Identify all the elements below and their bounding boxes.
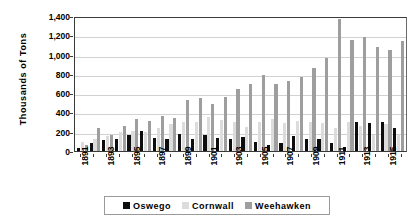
x-tick-mark bbox=[221, 154, 222, 157]
bar-group bbox=[76, 18, 89, 151]
bar-cornwall-1908 bbox=[296, 121, 299, 151]
bar-group bbox=[101, 18, 114, 151]
bar-weehawken-1902 bbox=[224, 97, 227, 151]
bar-cornwall-1906 bbox=[271, 119, 274, 151]
bar-oswego-1895 bbox=[127, 135, 130, 151]
bar-oswego-1901 bbox=[203, 135, 206, 151]
x-tick-cell: 1913 bbox=[356, 154, 369, 192]
x-tick-cell bbox=[87, 154, 100, 192]
y-tick-mark bbox=[70, 17, 73, 18]
y-tick-mark bbox=[70, 36, 73, 37]
x-tick-cell: 1911 bbox=[330, 154, 343, 192]
bar-group bbox=[89, 18, 102, 151]
y-tick-label: 1,200 bbox=[34, 32, 70, 40]
y-tick-label: 400 bbox=[34, 109, 70, 117]
bar-weehawken-1904 bbox=[249, 84, 252, 152]
bar-group bbox=[177, 18, 190, 151]
bar-oswego-1915 bbox=[381, 122, 384, 151]
legend-item-weehawken: Weehawken bbox=[245, 201, 311, 211]
square-swatch-icon bbox=[123, 202, 130, 209]
y-tick-mark bbox=[70, 113, 73, 114]
x-tick-mark bbox=[196, 154, 197, 157]
bar-cornwall-1900 bbox=[195, 122, 198, 151]
legend-label: Oswego bbox=[133, 201, 171, 211]
legend-item-cornwall: Cornwall bbox=[182, 201, 234, 211]
bar-cornwall-1914 bbox=[372, 135, 375, 151]
x-tick-cell: 1905 bbox=[253, 154, 266, 192]
x-tick-mark bbox=[93, 154, 94, 157]
x-tick-cell: 1903 bbox=[228, 154, 241, 192]
bar-group bbox=[266, 18, 279, 151]
x-tick-cell bbox=[189, 154, 202, 192]
bar-group bbox=[215, 18, 228, 151]
bar-weehawken-1913 bbox=[363, 37, 366, 151]
x-tick-mark bbox=[375, 154, 376, 157]
bar-group bbox=[380, 18, 393, 151]
bar-group bbox=[127, 18, 140, 151]
y-tick-label: 200 bbox=[34, 129, 70, 137]
y-tick-mark bbox=[70, 75, 73, 76]
x-tick-mark bbox=[349, 154, 350, 157]
bar-group bbox=[228, 18, 241, 151]
x-tick-cell: 1897 bbox=[151, 154, 164, 192]
bar-cornwall-1898 bbox=[169, 124, 172, 151]
x-tick-cell: 1891 bbox=[74, 154, 87, 192]
bar-group bbox=[241, 18, 254, 151]
x-tick-mark bbox=[298, 154, 299, 157]
bar-weehawken-1914 bbox=[376, 47, 379, 151]
bar-oswego-1899 bbox=[178, 134, 181, 151]
bar-weehawken-1899 bbox=[186, 100, 189, 151]
y-tick-mark bbox=[70, 152, 73, 153]
bar-cornwall-1892 bbox=[93, 139, 96, 151]
x-tick-cell bbox=[266, 154, 279, 192]
bar-oswego-1893 bbox=[102, 140, 105, 151]
y-axis: 02004006008001,0001,2001,400 bbox=[30, 0, 70, 223]
bar-cornwall-1910 bbox=[321, 123, 324, 151]
x-tick-cell bbox=[394, 154, 407, 192]
bar-cornwall-1894 bbox=[119, 132, 122, 151]
x-tick-cell: 1895 bbox=[125, 154, 138, 192]
x-tick-cell bbox=[317, 154, 330, 192]
bar-weehawken-1901 bbox=[211, 104, 214, 151]
bar-weehawken-1909 bbox=[312, 68, 315, 151]
x-tick-cell: 1899 bbox=[177, 154, 190, 192]
x-tick-cell: 1909 bbox=[305, 154, 318, 192]
x-tick-cell: 1893 bbox=[100, 154, 113, 192]
bar-group bbox=[367, 18, 380, 151]
bar-group bbox=[203, 18, 216, 151]
bar-weehawken-1912 bbox=[350, 40, 353, 151]
x-tick-cell: 1907 bbox=[279, 154, 292, 192]
y-tick-label: 600 bbox=[34, 90, 70, 98]
x-tick-mark bbox=[170, 154, 171, 157]
bar-group bbox=[279, 18, 292, 151]
x-tick-mark bbox=[324, 154, 325, 157]
bar-weehawken-1894 bbox=[123, 126, 126, 151]
x-tick-mark bbox=[273, 154, 274, 157]
x-tick-cell bbox=[164, 154, 177, 192]
bar-weehawken-1907 bbox=[287, 81, 290, 151]
bar-oswego-1911 bbox=[330, 143, 333, 151]
y-tick-label: 800 bbox=[34, 71, 70, 79]
y-tick-mark bbox=[70, 56, 73, 57]
bar-weehawken-1903 bbox=[236, 89, 239, 151]
plot-area bbox=[74, 17, 407, 152]
bar-group bbox=[329, 18, 342, 151]
y-tick-mark bbox=[70, 133, 73, 134]
bar-weehawken-1916 bbox=[401, 41, 404, 151]
square-swatch-icon bbox=[245, 202, 252, 209]
bar-weehawken-1911 bbox=[338, 19, 341, 151]
bar-group bbox=[152, 18, 165, 151]
x-tick-cell bbox=[292, 154, 305, 192]
bar-group bbox=[392, 18, 405, 151]
x-tick-cell bbox=[112, 154, 125, 192]
legend: OswegoCornwallWeehawken bbox=[104, 196, 330, 215]
bar-group bbox=[139, 18, 152, 151]
x-tick-mark bbox=[401, 154, 402, 157]
bar-weehawken-1898 bbox=[173, 118, 176, 151]
bar-oswego-1897 bbox=[153, 138, 156, 151]
bar-group bbox=[316, 18, 329, 151]
bar-weehawken-1892 bbox=[97, 128, 100, 151]
x-tick-cell bbox=[343, 154, 356, 192]
bar-group bbox=[342, 18, 355, 151]
y-tick-label: 0 bbox=[34, 148, 70, 156]
